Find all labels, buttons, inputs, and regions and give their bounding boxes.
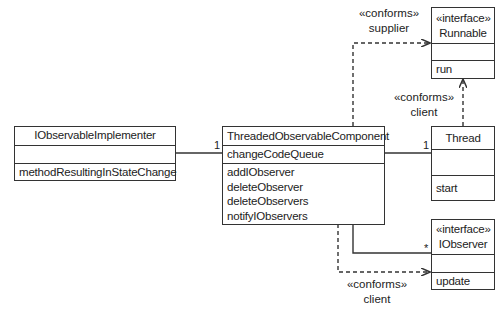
attributes-section: changeCodeQueue	[223, 145, 384, 163]
attributes-section	[432, 149, 494, 175]
multiplicity-component-thread: 1	[423, 139, 429, 151]
label-supplier-dependency: «conforms» supplier	[354, 6, 424, 36]
operation: deleteObservers	[227, 194, 380, 209]
multiplicity-implementer-component: 1	[214, 139, 220, 151]
multiplicity-component-iobserver: *	[424, 242, 428, 254]
operations-section: addIObserver deleteObserver deleteObserv…	[223, 163, 384, 224]
class-iobservable-implementer[interactable]: IObservableImplementer methodResultingIn…	[14, 126, 176, 181]
class-name: Runnable	[436, 26, 490, 41]
role: supplier	[354, 21, 424, 36]
class-name: Thread	[436, 131, 490, 146]
class-thread[interactable]: Thread start	[431, 126, 495, 201]
class-threaded-observable-component[interactable]: ThreadedObservableComponent changeCodeQu…	[222, 126, 385, 225]
attributes-section	[432, 254, 494, 272]
dependency-component-iobserver	[338, 224, 430, 272]
label-iobserver-dependency: «conforms» client	[341, 277, 413, 307]
operations-section: update	[432, 272, 494, 290]
role: client	[388, 105, 460, 120]
stereotype: «conforms»	[341, 277, 413, 292]
stereotype: «conforms»	[354, 6, 424, 21]
association-component-iobserver	[353, 224, 431, 253]
operation: addIObserver	[227, 165, 380, 180]
attributes-section	[432, 43, 494, 60]
class-runnable[interactable]: «interface» Runnable run	[431, 7, 495, 79]
operation: notifyIObservers	[227, 209, 380, 224]
operation: deleteObserver	[227, 180, 380, 195]
operations-section: run	[432, 60, 494, 78]
operation: methodResultingInStateChange	[19, 165, 171, 180]
class-iobserver[interactable]: «interface» IObserver update	[431, 219, 495, 290]
operation: update	[436, 274, 490, 289]
operations-section: start	[432, 175, 494, 200]
class-name: IObserver	[436, 237, 490, 252]
label-thread-dependency: «conforms» client	[388, 90, 460, 120]
operations-section: methodResultingInStateChange	[15, 163, 175, 181]
class-name: IObservableImplementer	[19, 128, 171, 143]
stereotype: «interface»	[436, 11, 490, 26]
operation: start	[436, 181, 490, 196]
attributes-section	[15, 145, 175, 163]
role: client	[341, 292, 413, 307]
attribute: changeCodeQueue	[227, 147, 380, 162]
class-name: ThreadedObservableComponent	[227, 129, 380, 144]
stereotype: «interface»	[436, 222, 490, 237]
stereotype: «conforms»	[388, 90, 460, 105]
operation: run	[436, 62, 490, 77]
